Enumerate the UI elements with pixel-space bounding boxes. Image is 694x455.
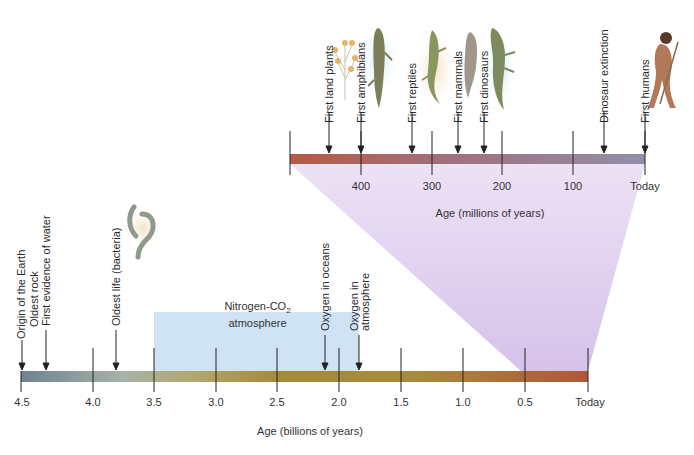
bottom-axis-title: Age (billions of years) [257, 425, 363, 437]
event-label-origin-of-earth: Origin of the Earth [16, 250, 27, 339]
timeline-diagram: Origin of the Earth Oldest rock First ev… [0, 0, 694, 455]
bacteria-illustration [121, 206, 165, 257]
event-label-first-evidence-of-water: First evidence of water [41, 215, 52, 326]
bottom-tick-label: 2.0 [331, 396, 346, 408]
atmosphere-label-line2: atmosphere [228, 317, 286, 329]
bottom-timeline-bar [21, 371, 588, 382]
bottom-tick-label: Today [575, 396, 604, 408]
top-timeline-bar [290, 154, 645, 164]
event-label-first-amphibians: First amphibians [356, 42, 367, 123]
bottom-tick-label: 4.5 [14, 396, 29, 408]
event-label-first-reptiles: First reptiles [407, 63, 418, 123]
top-tick-label: 200 [493, 180, 511, 192]
top-axis-title: Age (millions of years) [436, 207, 545, 219]
zoom-wedge [0, 0, 694, 455]
top-tick-label: Today [630, 180, 659, 192]
bottom-tick-label: 1.5 [393, 396, 408, 408]
bottom-tick-label: 2.5 [269, 396, 284, 408]
bottom-tick-label: 0.5 [517, 396, 532, 408]
event-label-oxygen-in-atmosphere-line2: atmosphere [360, 273, 371, 331]
event-label-oldest-rock: Oldest rock [29, 271, 40, 327]
atmosphere-label-subscript: 2 [286, 306, 290, 315]
event-label-first-land-plants: First land plants [324, 45, 335, 123]
top-tick-label: 400 [352, 180, 370, 192]
event-label-oldest-life: Oldest life (bacteria) [111, 228, 122, 326]
bottom-tick-label: 3.0 [208, 396, 223, 408]
event-label-oxygen-in-oceans: Oxygen in oceans [320, 243, 331, 331]
event-label-first-dinosaurs: First dinosaurs [479, 51, 490, 123]
atmosphere-label: Nitrogen-CO2 atmosphere [210, 300, 305, 330]
bottom-tick-label: 3.5 [146, 396, 161, 408]
mammal-illustration [464, 32, 477, 98]
event-label-dinosaur-extinction: Dinosaur extinction [599, 29, 610, 123]
event-label-first-humans: First humans [640, 59, 651, 123]
top-tick-label: 300 [423, 180, 441, 192]
top-tick-label: 100 [564, 180, 582, 192]
human-illustration [648, 32, 678, 108]
event-label-first-mammals: First mammals [453, 51, 464, 123]
bottom-tick-label: 4.0 [85, 396, 100, 408]
atmosphere-label-line1: Nitrogen-CO [224, 300, 286, 312]
bottom-tick-label: 1.0 [455, 396, 470, 408]
